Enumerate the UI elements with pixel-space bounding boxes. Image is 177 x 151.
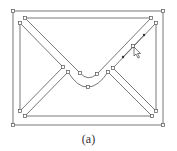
envelope-diagram	[0, 0, 177, 151]
anchor-point	[79, 72, 82, 75]
anchor-point	[96, 73, 99, 76]
anchor-point	[155, 110, 158, 113]
anchor-point	[162, 124, 165, 127]
arrow-cursor-icon	[134, 47, 141, 58]
anchor-point	[87, 86, 90, 89]
anchor-point	[19, 110, 22, 113]
bottom-right-diagonal	[108, 68, 156, 116]
anchor-point	[112, 67, 115, 70]
anchor-point	[162, 10, 165, 13]
anchor-point	[12, 124, 15, 127]
anchor-point	[62, 66, 65, 69]
handle-point	[143, 34, 145, 36]
bottom-left-diagonal	[20, 67, 68, 116]
anchor-point	[151, 115, 154, 118]
anchor-point	[155, 22, 158, 25]
anchor-point	[67, 71, 70, 74]
anchor-point	[19, 22, 22, 25]
anchor-point	[12, 10, 15, 13]
anchor-point	[24, 115, 27, 118]
anchor-point	[107, 71, 110, 74]
figure-caption: (a)	[0, 132, 177, 147]
anchor-point	[24, 17, 27, 20]
handle-point	[122, 56, 124, 58]
anchor-point	[150, 17, 153, 20]
